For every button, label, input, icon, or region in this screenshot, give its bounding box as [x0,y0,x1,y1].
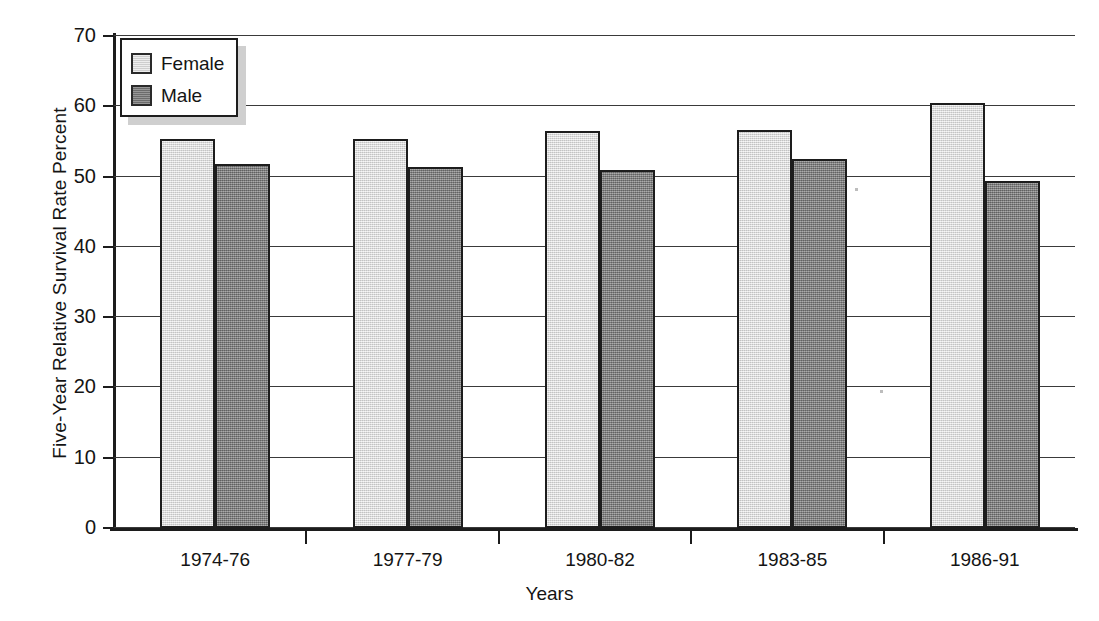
bar-female-1977-79 [353,139,408,528]
x-tick-mark [883,531,885,544]
y-tick-label: 60 [38,95,96,115]
y-tick-mark [103,386,114,388]
x-tick-mark [690,531,692,544]
legend-item-male[interactable]: Male [131,79,236,111]
bar-male-1986-91 [985,181,1040,528]
y-tick-label: 40 [38,236,96,256]
bar-female-1980-82 [545,131,600,528]
x-tick-mark [498,531,500,544]
scan-artifact [855,188,858,191]
bar-female-1986-91 [930,103,985,528]
y-tick-label: 30 [38,306,96,326]
x-tick-label: 1974-76 [135,549,295,571]
chart-legend: Female Male [120,38,238,117]
y-tick-label: 70 [38,25,96,45]
bar-male-1974-76 [215,164,270,528]
bar-male-1977-79 [408,167,463,528]
x-tick-label: 1983-85 [712,549,872,571]
y-tick-mark [103,316,114,318]
y-tick-mark [103,176,114,178]
y-tick-mark [103,246,114,248]
y-tick-mark [103,527,114,529]
y-tick-label: 10 [38,447,96,467]
scan-artifact [880,390,883,393]
bar-chart-figure: Five-Year Relative Survival Rate Percent… [0,0,1099,621]
x-tick-mark [305,531,307,544]
bar-male-1983-85 [792,159,847,528]
bar-female-1974-76 [160,139,215,528]
legend-label-female: Female [161,54,224,73]
y-tick-label: 50 [38,166,96,186]
y-tick-label: 20 [38,376,96,396]
y-tick-label: 0 [38,517,96,537]
x-tick-label: 1986-91 [905,549,1065,571]
y-axis-title: Five-Year Relative Survival Rate Percent [49,68,71,498]
bar-male-1980-82 [600,170,655,528]
y-tick-mark [103,457,114,459]
legend-swatch-male-icon [131,85,152,106]
legend-item-female[interactable]: Female [131,47,236,79]
x-tick-label: 1980-82 [520,549,680,571]
x-axis-title: Years [0,583,1099,605]
legend-label-male: Male [161,86,202,105]
legend-swatch-female-icon [131,53,152,74]
x-tick-label: 1977-79 [328,549,488,571]
y-tick-mark [103,105,114,107]
y-tick-mark [103,35,114,37]
x-axis-line [110,528,1078,531]
gridline [113,35,1075,36]
bar-female-1983-85 [737,130,792,528]
